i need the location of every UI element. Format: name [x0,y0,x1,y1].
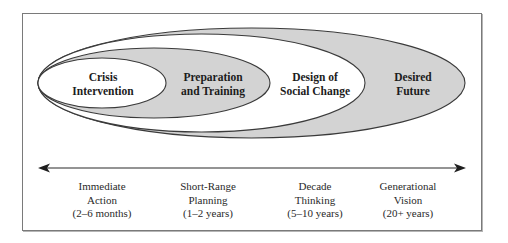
stage-line: Thinking [287,194,342,208]
stage-line: (20+ years) [380,207,437,221]
label-line: Design of [280,70,350,84]
label-line: Crisis [72,70,133,84]
label-line: Preparation [181,70,245,84]
stage-line: Short-Range [180,180,236,194]
stage-line: Action [73,194,132,208]
stage-line: (2–6 months) [73,207,132,221]
label-design-of-social-change: Design of Social Change [280,70,350,98]
stage-line: Planning [180,194,236,208]
stage-line: Immediate [73,180,132,194]
stage-line: Vision [380,194,437,208]
label-line: Intervention [72,84,133,98]
label-line: and Training [181,84,245,98]
label-line: Social Change [280,84,350,98]
label-crisis-intervention: Crisis Intervention [72,70,133,98]
label-desired-future: Desired Future [394,70,431,98]
timeline-stage-short-range-planning: Short-Range Planning (1–2 years) [180,180,236,221]
label-line: Desired [394,70,431,84]
label-line: Future [394,84,431,98]
stage-line: (1–2 years) [180,207,236,221]
stage-line: Generational [380,180,437,194]
label-preparation-and-training: Preparation and Training [181,70,245,98]
timeline-stage-decade-thinking: Decade Thinking (5–10 years) [287,180,342,221]
stage-line: Decade [287,180,342,194]
timeline-arrow [38,164,466,173]
timeline-stage-immediate-action: Immediate Action (2–6 months) [73,180,132,221]
timeline-stage-generational-vision: Generational Vision (20+ years) [380,180,437,221]
stage-line: (5–10 years) [287,207,342,221]
